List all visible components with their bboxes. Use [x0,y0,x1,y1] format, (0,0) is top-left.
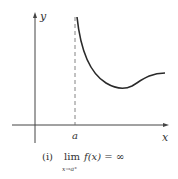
y-axis-arrow-icon [33,12,37,18]
asymptote-label: a [72,130,78,141]
caption-subscript: x→a⁺ [62,165,77,172]
x-axis-arrow-icon [163,123,169,127]
limit-diagram: y x a (i) lim f(x) = ∞ x→a⁺ [0,0,178,179]
caption-expression: f(x) = ∞ [83,151,124,162]
x-axis-label: x [162,131,169,144]
y-axis-label: y [39,10,47,23]
caption-number: (i) [42,151,53,162]
function-curve [77,17,165,88]
caption-lim: lim [64,151,80,162]
